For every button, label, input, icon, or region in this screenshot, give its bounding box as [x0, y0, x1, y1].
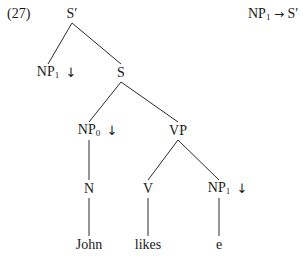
- substitution-arrow-icon: ↓: [107, 123, 118, 139]
- node-subscript: 0: [96, 128, 101, 138]
- tree-node-vp: VP: [169, 123, 187, 139]
- node-subscript: 1: [55, 70, 60, 80]
- node-label: NP: [208, 180, 226, 195]
- tree-node-john: John: [76, 237, 102, 253]
- tree-edge: [178, 140, 219, 180]
- node-label: NP: [37, 64, 55, 79]
- node-label: John: [76, 237, 102, 252]
- tree-node-likes: likes: [135, 237, 161, 253]
- tree-node-v: V: [143, 181, 153, 197]
- node-label: S: [117, 65, 125, 80]
- node-label: N: [84, 181, 94, 196]
- tree-node-e: e: [216, 237, 222, 253]
- node-label: likes: [135, 237, 161, 252]
- tree-node-np1_obj: NP1: [208, 180, 230, 199]
- tree-edge: [48, 23, 72, 64]
- tree-edge: [89, 82, 121, 122]
- tree-node-np0: NP0: [78, 122, 100, 141]
- tree-edge: [121, 82, 178, 122]
- substitution-arrow-icon: ↓: [237, 181, 248, 197]
- tree-edge: [72, 23, 121, 64]
- node-label: V: [143, 181, 153, 196]
- node-label: NP: [78, 122, 96, 137]
- tree-node-s_bar: S′: [67, 6, 78, 22]
- node-label: S′: [67, 6, 78, 21]
- tree-edges: [0, 0, 308, 261]
- tree-node-s: S: [117, 65, 125, 81]
- tree-edge: [148, 140, 178, 180]
- node-label: VP: [169, 123, 187, 138]
- tree-node-np1_top: NP1: [37, 64, 59, 83]
- substitution-arrow-icon: ↓: [66, 65, 77, 81]
- node-label: e: [216, 237, 222, 252]
- tree-node-n: N: [84, 181, 94, 197]
- node-subscript: 1: [226, 186, 231, 196]
